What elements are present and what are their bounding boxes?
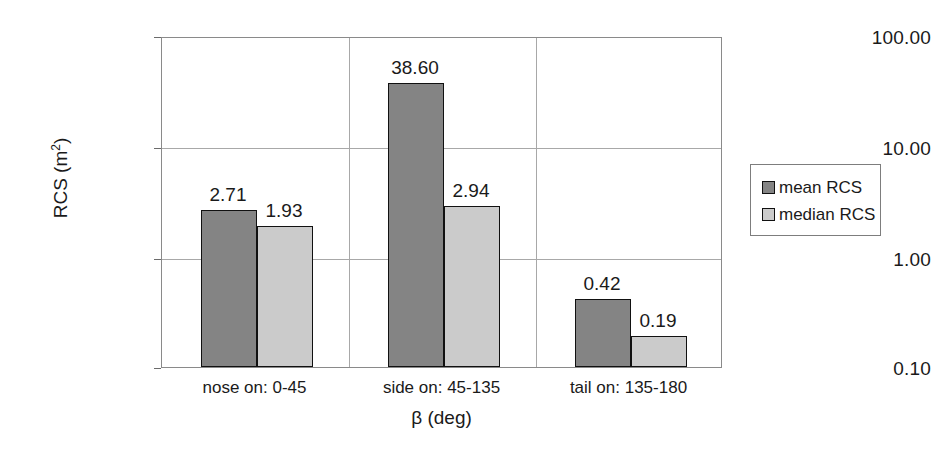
bar-median-side-on: [444, 206, 500, 367]
y-axis-title-exponent: 2: [49, 144, 63, 151]
x-tick-label-tail-on: tail on: 135-180: [535, 378, 722, 397]
category-divider-2: [536, 38, 537, 367]
legend: mean RCS median RCS: [750, 164, 881, 236]
bar-value-label-median-side-on: 2.94: [437, 181, 505, 200]
x-axis-title: β (deg): [161, 408, 722, 428]
y-tick-mark-1: [154, 259, 161, 260]
y-tick-mark-10: [154, 148, 161, 149]
bar-mean-side-on: [388, 83, 444, 367]
x-tick-label-side-on: side on: 45-135: [348, 378, 535, 397]
y-tick-label-1: 1.00: [839, 250, 931, 269]
bar-value-label-median-tail-on: 0.19: [624, 311, 692, 330]
bar-mean-tail-on: [575, 299, 631, 367]
category-divider-1: [349, 38, 350, 367]
bar-value-label-mean-side-on: 38.60: [381, 58, 449, 77]
y-tick-mark-100: [154, 37, 161, 38]
legend-item-median-rcs: median RCS: [762, 201, 880, 228]
y-tick-label-10: 10.00: [839, 139, 931, 158]
legend-swatch-mean-icon: [762, 181, 775, 194]
x-tick-label-nose-on: nose on: 0-45: [161, 378, 348, 397]
bar-median-tail-on: [631, 336, 687, 367]
y-tick-mark-0-1: [154, 368, 161, 369]
legend-swatch-median-icon: [762, 208, 775, 221]
bar-median-nose-on: [257, 226, 313, 367]
legend-item-mean-rcs: mean RCS: [762, 174, 880, 201]
bar-mean-nose-on: [201, 210, 257, 367]
rcs-bar-chart: 100.00 10.00 1.00 0.10 RCS (m2) 2.71 1.9…: [0, 0, 931, 453]
y-axis-title-base: RCS (m: [50, 151, 71, 219]
bar-value-label-median-nose-on: 1.93: [250, 201, 318, 220]
y-axis-title: RCS (m2): [51, 108, 71, 248]
y-axis-title-close: ): [50, 138, 71, 144]
y-tick-label-0-1: 0.10: [839, 359, 931, 378]
legend-label-median-rcs: median RCS: [779, 206, 875, 224]
bar-value-label-mean-tail-on: 0.42: [568, 274, 636, 293]
y-tick-label-100: 100.00: [839, 28, 931, 47]
legend-label-mean-rcs: mean RCS: [779, 179, 862, 197]
